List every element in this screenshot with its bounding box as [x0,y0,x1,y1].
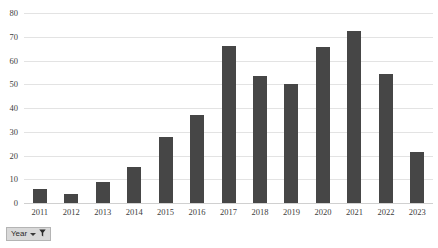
x-axis-tick-label: 2023 [402,205,433,219]
bar[interactable] [253,76,267,203]
x-axis-tick-label: 2012 [55,205,86,219]
bar-slot [118,13,149,203]
x-axis-tick-label: 2019 [276,205,307,219]
x-axis-tick-label: 2021 [339,205,370,219]
bar-series [24,13,433,203]
year-filter-button[interactable]: Year [6,227,51,241]
y-axis: 80706050403020100 [0,13,22,203]
x-axis-tick-label: 2016 [181,205,212,219]
bar[interactable] [33,189,47,203]
bar[interactable] [159,137,173,204]
y-axis-tick-label: 40 [10,104,19,113]
bar-slot [150,13,181,203]
bar-slot [276,13,307,203]
plot-area [24,13,433,203]
bar[interactable] [64,194,78,204]
y-axis-tick-label: 60 [10,56,19,65]
bar[interactable] [347,31,361,203]
x-axis-tick-label: 2015 [150,205,181,219]
year-filter-label: Year [11,230,27,238]
chevron-down-icon[interactable] [30,233,36,236]
x-axis-tick-label: 2017 [213,205,244,219]
bar-slot [307,13,338,203]
bar[interactable] [222,46,236,203]
x-axis-tick-label: 2022 [370,205,401,219]
y-axis-tick-label: 30 [10,128,19,137]
gridline [24,203,433,204]
y-axis-tick-label: 20 [10,151,19,160]
bar-slot [370,13,401,203]
bar-slot [87,13,118,203]
x-axis-tick-label: 2014 [118,205,149,219]
y-axis-tick-label: 10 [10,175,19,184]
bar[interactable] [379,74,393,203]
funnel-filter-icon[interactable] [39,229,46,239]
bar[interactable] [316,47,330,203]
y-axis-tick-label: 50 [10,80,19,89]
y-axis-tick-label: 0 [14,199,18,208]
chart-title [0,0,438,2]
bar[interactable] [410,152,424,203]
bar-slot [339,13,370,203]
x-axis-tick-label: 2020 [307,205,338,219]
x-axis: 2011201220132014201520162017201820192020… [24,205,433,219]
bar-slot [181,13,212,203]
bar-slot [244,13,275,203]
x-axis-tick-label: 2018 [244,205,275,219]
bar-slot [24,13,55,203]
bar-slot [213,13,244,203]
bar[interactable] [127,167,141,203]
y-axis-tick-label: 80 [10,9,19,18]
y-axis-tick-label: 70 [10,33,19,42]
x-axis-tick-label: 2013 [87,205,118,219]
bar[interactable] [284,84,298,203]
bar-slot [402,13,433,203]
x-axis-tick-label: 2011 [24,205,55,219]
bar-chart-figure: 80706050403020100 2011201220132014201520… [0,0,438,248]
bar[interactable] [96,182,110,203]
bar-slot [55,13,86,203]
bar[interactable] [190,115,204,203]
